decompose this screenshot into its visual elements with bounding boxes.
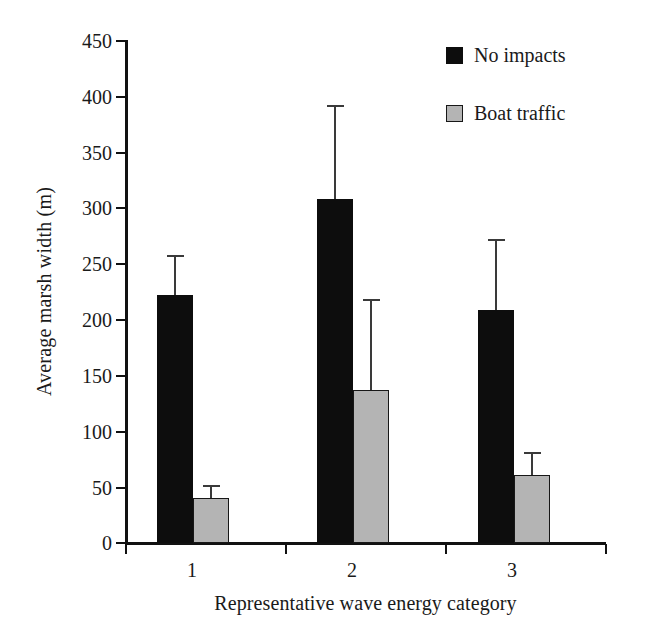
errorbar-boat-traffic-cat3 (514, 452, 550, 475)
errorbar-boat-traffic-cat1 (193, 485, 229, 498)
x-tick-label-1: 1 (172, 560, 212, 580)
errorbar-stem-icon (370, 299, 372, 390)
y-tick-label-300: 300 (50, 198, 112, 218)
errorbar-stem-icon (334, 105, 336, 199)
y-tick-label-450: 450 (50, 31, 112, 51)
chart-legend: No impacts Boat traffic (446, 44, 566, 160)
x-tick-label-3: 3 (492, 560, 532, 580)
light-square-icon (446, 105, 463, 122)
y-tick-300 (116, 207, 126, 209)
x-tick-end (605, 544, 607, 554)
y-tick-50 (116, 487, 126, 489)
y-tick-label-0: 0 (50, 533, 112, 553)
errorbar-stem-icon (531, 452, 533, 475)
legend-item-no-impacts: No impacts (446, 44, 566, 66)
errorbar-stem-icon (174, 255, 176, 295)
y-tick-label-50: 50 (50, 478, 112, 498)
y-tick-label-400: 400 (50, 87, 112, 107)
x-tick-2 (445, 544, 447, 554)
y-axis-line (125, 40, 128, 544)
y-tick-label-100: 100 (50, 422, 112, 442)
y-tick-400 (116, 96, 126, 98)
y-tick-label-250: 250 (50, 254, 112, 274)
bar-no-impacts-cat3 (478, 310, 514, 543)
y-axis-title: Average marsh width (m) (33, 142, 56, 442)
legend-item-boat-traffic: Boat traffic (446, 102, 566, 124)
errorbar-stem-icon (495, 239, 497, 310)
legend-label-boat-traffic: Boat traffic (474, 103, 565, 123)
y-tick-450 (116, 40, 126, 42)
y-tick-200 (116, 319, 126, 321)
y-tick-100 (116, 431, 126, 433)
legend-label-no-impacts: No impacts (474, 45, 566, 65)
errorbar-no-impacts-cat2 (317, 105, 353, 199)
errorbar-no-impacts-cat3 (478, 239, 514, 310)
bar-chart-figure: Average marsh width (m) 450 400 350 300 … (0, 0, 648, 643)
dark-square-icon (446, 47, 463, 64)
bar-boat-traffic-cat2 (353, 390, 389, 543)
x-tick-1 (285, 544, 287, 554)
x-axis-title: Representative wave energy category (125, 592, 606, 615)
y-tick-label-350: 350 (50, 143, 112, 163)
bar-no-impacts-cat2 (317, 199, 353, 543)
y-tick-350 (116, 152, 126, 154)
errorbar-boat-traffic-cat2 (353, 299, 389, 390)
errorbar-no-impacts-cat1 (157, 255, 193, 295)
bar-no-impacts-cat1 (157, 295, 193, 543)
y-tick-150 (116, 375, 126, 377)
y-tick-label-150: 150 (50, 366, 112, 386)
x-tick-start (125, 544, 127, 554)
x-tick-label-2: 2 (332, 560, 372, 580)
bar-boat-traffic-cat1 (193, 498, 229, 543)
y-tick-250 (116, 263, 126, 265)
y-tick-label-200: 200 (50, 310, 112, 330)
bar-boat-traffic-cat3 (514, 475, 550, 543)
errorbar-stem-icon (210, 485, 212, 498)
